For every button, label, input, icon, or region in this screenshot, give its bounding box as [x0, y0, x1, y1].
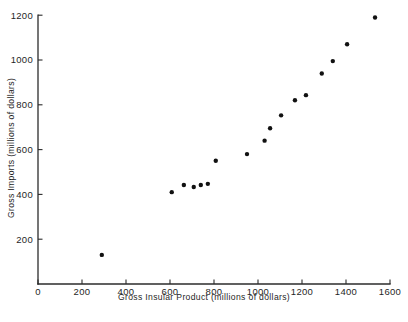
data-point — [192, 185, 196, 189]
data-points-group — [100, 15, 378, 257]
y-tick-label-200: 200 — [16, 234, 33, 245]
y-tick-label-1000: 1000 — [11, 54, 33, 65]
data-point — [345, 42, 349, 46]
data-point — [331, 59, 335, 63]
y-axis-title: Gross Imports (millions of dollars) — [6, 78, 16, 218]
x-tick-label-200: 200 — [74, 286, 91, 297]
y-tick-label-1200: 1200 — [11, 10, 33, 21]
data-point — [304, 93, 308, 97]
y-tick-label-800: 800 — [16, 99, 33, 110]
data-point — [320, 71, 324, 75]
data-point — [268, 126, 272, 130]
y-tick-label-400: 400 — [16, 189, 33, 200]
plot-area: 02004006008001000120014001600 2004006008… — [0, 0, 408, 322]
data-point — [182, 183, 186, 187]
axis-group — [38, 15, 390, 284]
x-tick-label-1400: 1400 — [335, 286, 357, 297]
data-point — [279, 113, 283, 117]
x-axis-ticks — [38, 280, 390, 285]
data-point — [262, 138, 266, 142]
y-axis-ticks — [38, 15, 43, 239]
data-point — [245, 152, 249, 156]
data-point — [214, 159, 218, 163]
data-point — [206, 182, 210, 186]
data-point — [100, 253, 104, 257]
data-point — [199, 183, 203, 187]
x-tick-label-1200: 1200 — [291, 286, 313, 297]
y-tick-label-600: 600 — [16, 144, 33, 155]
data-point — [293, 98, 297, 102]
x-tick-label-1600: 1600 — [379, 286, 401, 297]
x-axis-title: Gross Insular Product (millions of dolla… — [118, 292, 290, 302]
data-point — [170, 190, 174, 194]
x-tick-label-0: 0 — [35, 286, 41, 297]
data-point — [373, 15, 377, 19]
scatter-chart: 02004006008001000120014001600 2004006008… — [0, 0, 408, 322]
